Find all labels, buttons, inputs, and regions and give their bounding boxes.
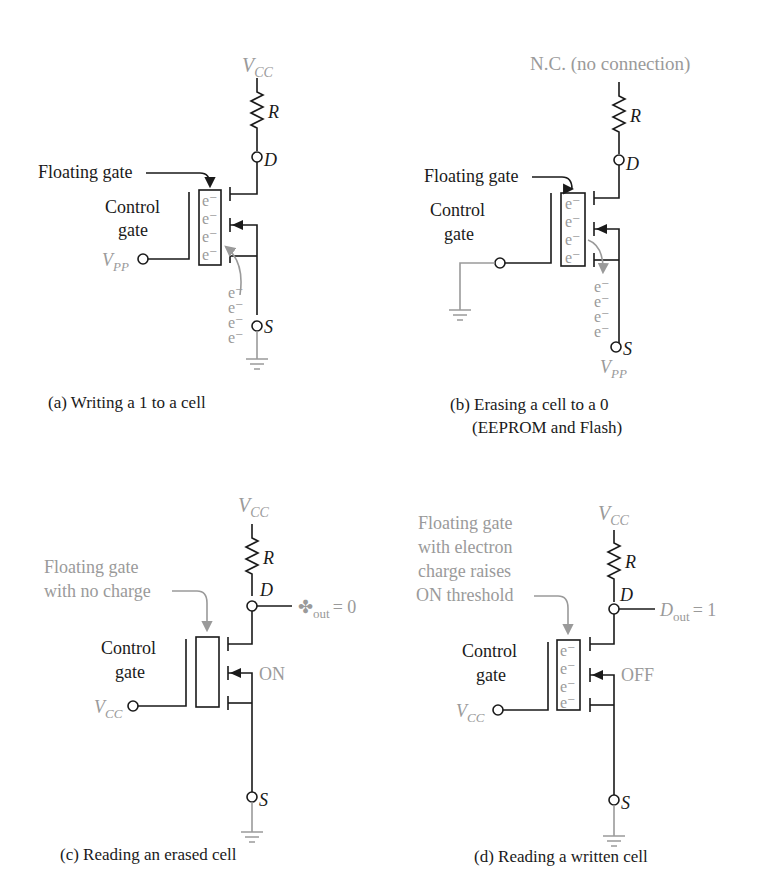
ground-icon [449, 310, 471, 320]
floating-gate-label-2: with no charge [44, 581, 151, 601]
svg-text:e⁻: e⁻ [565, 231, 581, 248]
control-gate-label-2: gate [444, 224, 474, 244]
source-label: S [623, 339, 632, 359]
ground-icon [246, 359, 268, 369]
svg-text:VCC: VCC [94, 697, 123, 721]
caption-a: (a) Writing a 1 to a cell [48, 393, 206, 412]
svg-text:e⁻: e⁻ [565, 195, 581, 212]
svg-text:e⁻: e⁻ [560, 678, 576, 695]
resistor-label: R [624, 552, 636, 572]
drain-label: D [259, 580, 273, 600]
floating-gate-cell-diagram: VCC R D e⁻ e⁻ e⁻ e⁻ VPP Floating gate Co… [0, 0, 770, 880]
supply-label: N.C. (no connection) [530, 53, 690, 75]
caption-c: (c) Reading an erased cell [60, 845, 237, 864]
svg-text:VCC: VCC [456, 701, 485, 725]
svg-text:e⁻: e⁻ [565, 249, 581, 266]
caption-b-line1: (b) Erasing a cell to a 0 [450, 395, 609, 414]
floating-gate-arrow [172, 591, 207, 630]
floating-gate-arrow [534, 596, 568, 633]
source-label: S [621, 793, 630, 813]
svg-text:e⁻: e⁻ [560, 660, 576, 677]
output-symbol: D [659, 600, 673, 620]
source-node [252, 321, 262, 331]
svg-text:VPP: VPP [600, 357, 627, 381]
svg-text:e⁻: e⁻ [560, 642, 576, 659]
floating-gate-label-1: Floating gate [418, 513, 512, 533]
ground-icon [603, 836, 625, 846]
drain-label: D [619, 585, 633, 605]
drain-node [614, 155, 624, 165]
panel-b: N.C. (no connection) R D e⁻ e⁻ e⁻ e⁻ Flo… [424, 53, 690, 437]
gate-node [495, 258, 505, 268]
resistor [613, 82, 625, 154]
panel-d: VCC R D Dout= 1 e⁻ e⁻ e⁻ e⁻ VCC Floating… [416, 502, 716, 866]
floating-gate-label-3: charge raises [418, 561, 511, 581]
source-label: S [259, 790, 268, 810]
electron-erase-arrow [588, 240, 603, 272]
resistor [608, 530, 620, 602]
control-gate-label-1: Control [430, 200, 485, 220]
ground-icon [241, 832, 263, 842]
gate-input-node [128, 701, 138, 711]
floating-gate-arrow [532, 177, 572, 189]
svg-text:Dout= 1: Dout= 1 [659, 600, 716, 624]
resistor [251, 78, 263, 151]
drain-label: D [263, 150, 277, 170]
drain-label: D [625, 154, 639, 174]
source-label: S [264, 317, 273, 337]
output-symbol: ✤ [298, 597, 313, 617]
svg-text:VPP: VPP [102, 250, 129, 274]
svg-text:e⁻: e⁻ [560, 694, 576, 711]
svg-text:e⁻: e⁻ [228, 329, 244, 346]
floating-gate-label-1: Floating gate [44, 557, 138, 577]
caption-d: (d) Reading a written cell [474, 847, 648, 866]
floating-gate-label-2: with electron [418, 537, 512, 557]
panel-c: VCC R D ✤out= 0 VCC Floating gate with n… [44, 494, 356, 864]
floating-gate-label: Floating gate [424, 166, 518, 186]
control-gate [505, 193, 551, 263]
floating-gate-empty [196, 637, 219, 707]
svg-text:e⁻: e⁻ [202, 192, 218, 209]
state-label: ON [259, 664, 285, 684]
gate-input-node [493, 705, 503, 715]
floating-gate-label: Floating gate [38, 162, 132, 182]
resistor [246, 524, 258, 596]
svg-text:e⁻: e⁻ [202, 246, 218, 263]
svg-text:e⁻: e⁻ [202, 228, 218, 245]
floating-gate-label-4: ON threshold [416, 585, 514, 605]
supply-sub: CC [254, 65, 273, 80]
source-node [609, 795, 619, 805]
svg-text:VCC: VCC [242, 54, 274, 80]
control-gate-label-2: gate [118, 220, 148, 240]
gate-input-node [138, 254, 148, 264]
svg-text:e⁻: e⁻ [202, 210, 218, 227]
svg-text:e⁻: e⁻ [565, 213, 581, 230]
control-gate-label-1: Control [462, 641, 517, 661]
svg-text:VCC: VCC [598, 502, 630, 528]
control-gate-label-2: gate [476, 665, 506, 685]
source-node [611, 342, 621, 352]
drain-node [609, 604, 619, 614]
control-gate-label-1: Control [105, 197, 160, 217]
drain-node [252, 152, 262, 162]
resistor-label: R [629, 106, 641, 126]
drain-wire [230, 162, 257, 194]
control-gate-label-2: gate [115, 662, 145, 682]
panel-a: VCC R D e⁻ e⁻ e⁻ e⁻ VPP Floating gate Co… [38, 54, 279, 412]
svg-text:e⁻: e⁻ [594, 323, 610, 340]
source-node [247, 792, 257, 802]
drain-node [247, 601, 257, 611]
svg-text:✤out= 0: ✤out= 0 [298, 597, 356, 621]
floating-gate-arrow [146, 173, 210, 186]
control-gate-label-1: Control [101, 638, 156, 658]
caption-b-line2: (EEPROM and Flash) [472, 418, 622, 437]
svg-text:VCC: VCC [238, 494, 270, 520]
resistor-label: R [267, 102, 279, 122]
resistor-label: R [262, 548, 274, 568]
state-label: OFF [621, 665, 654, 685]
